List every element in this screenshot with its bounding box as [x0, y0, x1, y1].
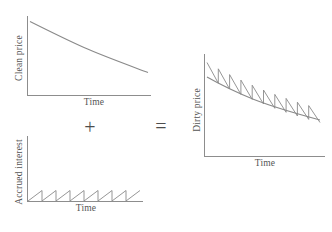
y-axis-label-clean-price: Clean price — [14, 27, 24, 89]
chart-clean-price — [0, 0, 170, 100]
y-axis-label-dirty-price: Dirty price — [192, 79, 202, 141]
x-axis-label-dirty-price: Time — [237, 158, 293, 168]
x-axis-label-clean-price: Time — [66, 97, 122, 107]
x-axis-label-accrued-interest: Time — [58, 203, 114, 213]
accrued-interest-sawtooth — [28, 191, 140, 202]
dirty-price-sawtooth — [207, 63, 320, 123]
chart-accrued-interest — [0, 130, 170, 212]
figure-root: Clean price Time + = Accrued interest Ti… — [0, 0, 332, 232]
clean-price-curve — [30, 22, 148, 73]
chart-dirty-price — [182, 40, 332, 165]
y-axis-label-accrued-interest: Accrued interest — [14, 133, 24, 211]
